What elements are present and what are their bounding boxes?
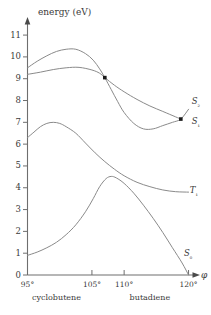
x-tick-label-95°: 95° [15, 281, 41, 289]
y-tick-label-6: 6 [5, 140, 21, 149]
y-axis-arrowhead [25, 17, 31, 25]
curve-group [28, 49, 189, 275]
y-tick-label-11: 11 [5, 31, 21, 40]
curve-label-S2: S₂ [192, 97, 200, 108]
marker-group [103, 76, 183, 121]
y-tick-label-10: 10 [5, 52, 21, 61]
region-label-cyclobutene: cyclobutene [26, 294, 86, 302]
y-tick-label-8: 8 [5, 96, 21, 105]
y-tick-label-2: 2 [5, 227, 21, 236]
plot-canvas [0, 0, 211, 315]
marker-s1-s2-convergence [179, 117, 183, 121]
y-tick-label-5: 5 [5, 161, 21, 170]
y-tick-label-0: 0 [5, 271, 21, 280]
y-tick-label-1: 1 [5, 249, 21, 258]
x-tick-label-120°: 120° [176, 281, 202, 289]
y-tick-marks [23, 35, 28, 275]
curve-S1 [28, 67, 181, 119]
curve-S0 [28, 176, 189, 275]
x-axis-title: φ [201, 271, 207, 280]
marker-conical-intersection [103, 76, 107, 80]
y-tick-label-4: 4 [5, 183, 21, 192]
y-tick-label-7: 7 [5, 118, 21, 127]
curve-label-S1: S₁ [192, 117, 200, 128]
region-label-butadiene: butadiene [120, 294, 180, 302]
curve-S2 [28, 49, 189, 130]
y-axis-title: energy (eV) [38, 8, 91, 17]
x-tick-marks [92, 270, 189, 275]
x-axis-arrowhead [193, 272, 201, 278]
curve-T1 [28, 122, 189, 192]
x-tick-label-110°: 110° [111, 281, 137, 289]
curve-label-S0: S₀ [184, 249, 192, 260]
energy-diagram-figure: 01234567891011 95°105°110°120° S₂S₁T₁S₀ … [0, 0, 211, 315]
x-tick-label-105°: 105° [79, 281, 105, 289]
curve-label-T1: T₁ [190, 186, 198, 197]
y-tick-label-9: 9 [5, 74, 21, 83]
y-tick-label-3: 3 [5, 205, 21, 214]
